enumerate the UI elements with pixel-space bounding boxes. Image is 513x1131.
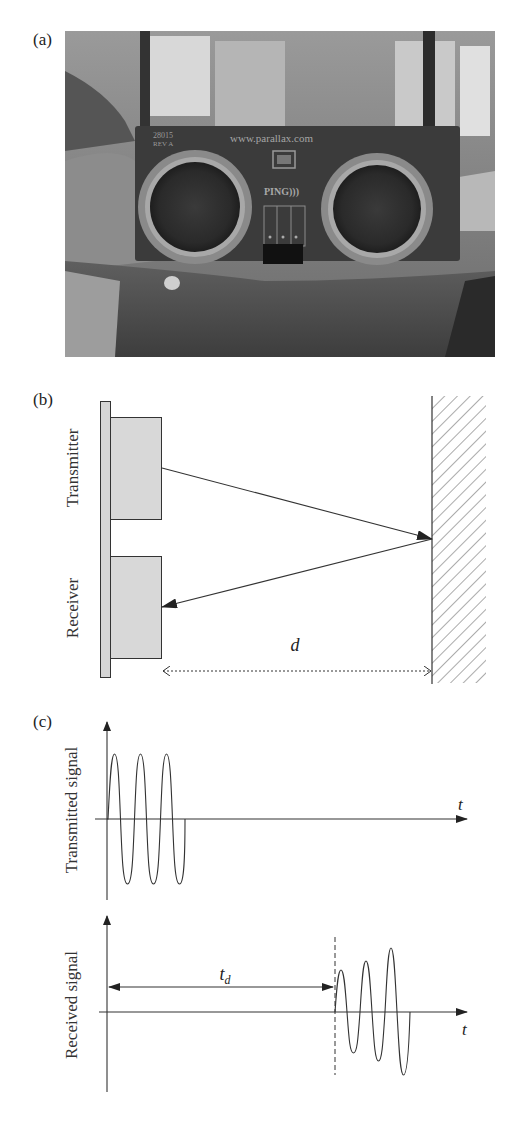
transmitted-signal-plot: Transmitted signal t [62, 722, 467, 900]
received-xlabel: t [462, 1020, 468, 1039]
schematic-panel: Transmitter Receiver d [63, 396, 486, 684]
receiver-block [111, 557, 162, 659]
diagram-canvas: Transmitter Receiver d Transmitted signa… [0, 0, 513, 1131]
received-ylabel: Received signal [62, 951, 81, 1059]
outgoing-ray-arrow [162, 468, 432, 539]
delay-label: td [219, 964, 231, 987]
transmitter-label: Transmitter [63, 428, 82, 507]
transmitter-block [111, 418, 162, 520]
transmitted-xlabel: t [458, 795, 464, 814]
wall-hatch [432, 396, 486, 683]
distance-label: d [291, 635, 301, 655]
receiver-label: Receiver [63, 577, 82, 638]
mounting-board [101, 402, 111, 678]
transmitted-ylabel: Transmitted signal [62, 747, 81, 874]
reflected-ray-arrow [162, 539, 432, 607]
received-signal-plot: td Received signal t [62, 916, 468, 1092]
